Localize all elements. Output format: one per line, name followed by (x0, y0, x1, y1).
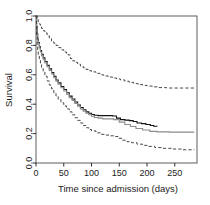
x-tick-label: 100 (84, 168, 99, 178)
y-tick-label: 0.0 (24, 157, 34, 170)
x-axis-title: Time since admission (days) (58, 183, 178, 194)
survival-curve-figure: 050100150200250 0.00.20.40.60.81.0 Time … (0, 0, 210, 205)
y-tick-label: 1.0 (24, 10, 34, 23)
x-tick-label: 250 (167, 168, 182, 178)
x-tick-label: 50 (59, 168, 69, 178)
series-line-upper-confidence-band (36, 16, 194, 88)
y-axis-ticks: 0.00.20.40.60.81.0 (24, 10, 36, 170)
series-line-survival-estimate-black (36, 16, 157, 127)
chart-canvas: 050100150200250 0.00.20.40.60.81.0 Time … (0, 0, 210, 205)
y-tick-label: 0.2 (24, 127, 34, 140)
y-tick-label: 0.4 (24, 98, 34, 111)
x-tick-label: 200 (140, 168, 155, 178)
x-tick-label: 150 (112, 168, 127, 178)
x-axis-ticks: 050100150200250 (33, 163, 182, 178)
y-tick-label: 0.8 (24, 39, 34, 52)
y-tick-label: 0.6 (24, 69, 34, 82)
x-tick-label: 0 (33, 168, 38, 178)
plot-frame (36, 16, 197, 163)
series-line-survival-estimate-gray (36, 16, 194, 132)
series-layer (36, 16, 194, 150)
y-axis-title: Survival (3, 73, 14, 107)
